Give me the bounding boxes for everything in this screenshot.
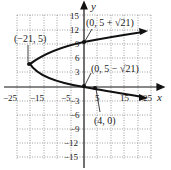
y-tick: −6 xyxy=(70,110,80,120)
y-tick: 6 xyxy=(75,53,80,63)
arrow-upper xyxy=(139,28,148,35)
x-tick: −25 xyxy=(3,93,18,103)
y-tick: −15 xyxy=(64,152,79,162)
y-tick: −9 xyxy=(70,124,80,134)
vertex-point xyxy=(27,62,31,66)
y-tick: 12 xyxy=(70,25,79,35)
x-tick: 15 xyxy=(120,93,130,103)
vertex-label: (−21, 5) xyxy=(14,33,46,45)
y-tick: −12 xyxy=(64,138,78,148)
x-intercept-label: (4, 0) xyxy=(94,115,116,127)
y-tick: −3 xyxy=(70,96,80,106)
y-axis-label: y xyxy=(90,0,96,12)
x-tick: −15 xyxy=(30,93,45,103)
y-tick: 3 xyxy=(75,67,80,77)
x-tick: 25 xyxy=(143,93,153,103)
parabola-graph: (−21, 5) (0, 5 + √21) (0, 5 − √21) (4, 0… xyxy=(0,0,171,170)
upper-intercept-label: (0, 5 + √21) xyxy=(86,17,134,29)
lower-intercept-label: (0, 5 − √21) xyxy=(91,63,139,75)
y-tick: 15 xyxy=(70,11,80,21)
y-tick: 9 xyxy=(75,39,80,49)
x-axis-label: x xyxy=(156,91,162,103)
x-tick: 5 xyxy=(95,93,100,103)
